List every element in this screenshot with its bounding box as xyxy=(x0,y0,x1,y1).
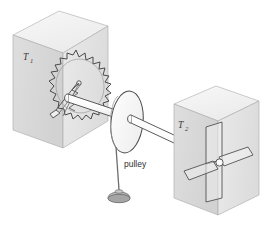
axle-right-endcap xyxy=(128,115,131,123)
left-thermal-reservoir-block xyxy=(13,11,108,148)
label-T2-base: T xyxy=(178,120,184,130)
label-T1-subscript: 1 xyxy=(30,57,33,64)
hanging-weight-base xyxy=(108,194,130,202)
label-pulley: pulley xyxy=(124,159,147,169)
label-T1-base: T xyxy=(23,52,29,62)
figure-container: T 1 T 2 pulley xyxy=(0,0,266,230)
left-block-left-face xyxy=(13,35,63,148)
hanging-weight-cap xyxy=(115,190,123,194)
ratchet-pawl-diagram: T 1 T 2 pulley xyxy=(0,0,266,230)
hanging-weight-assembly xyxy=(108,147,130,203)
paddle-wheel-hub xyxy=(216,159,223,166)
string xyxy=(116,147,119,190)
axle-left-endcap xyxy=(65,94,68,102)
